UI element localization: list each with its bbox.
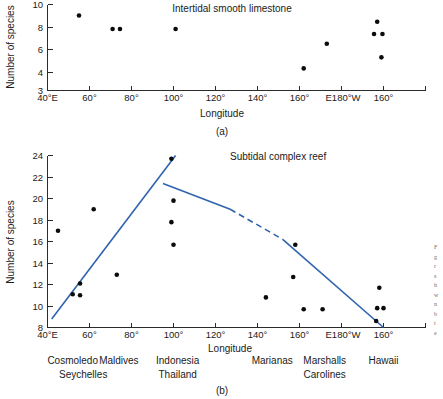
panel-b: 81012141618202224 Number of species 40°E… [5, 150, 426, 396]
panel-a-label: (a) [216, 126, 228, 137]
data-point [301, 66, 306, 71]
panel-a-axes [48, 5, 426, 91]
panel-b-location-labels-row2: SeychellesThailandCarolines [59, 369, 346, 380]
trend-line-falling-limb-dashed [230, 209, 283, 239]
panel-b-ytick-label: 24 [32, 150, 43, 161]
panel-b-data-points [56, 156, 386, 323]
data-point [171, 242, 176, 247]
data-point [110, 27, 115, 32]
location-label: Seychelles [59, 369, 107, 380]
panel-b-y-ticks [48, 156, 53, 328]
panel-b-ytick-label: 12 [32, 279, 43, 290]
panel-a: 10 8 6 4 3 Number of species [5, 0, 426, 137]
panel-b-x-tick-labels: 40°E 60° 80° 100° 120° 140° 160° E180°W … [37, 329, 393, 340]
trend-line-falling-limb-solid-left [163, 183, 230, 209]
location-label: Marshalls [303, 355, 346, 366]
panel-a-x-tick-labels: 40°E 60° 80° 100° 120° 140° 160° E180°W … [37, 92, 393, 103]
data-point [115, 273, 120, 278]
data-point [320, 307, 325, 312]
data-point [78, 293, 83, 298]
panel-a-ytick-8: 8 [38, 22, 43, 33]
data-point [173, 27, 178, 32]
panel-b-x-ticks [48, 323, 426, 328]
scatter-plot-svg: 10 8 6 4 3 Number of species [0, 0, 443, 399]
panel-a-xtick-3: 100° [164, 92, 184, 103]
data-point [169, 156, 174, 161]
panel-a-xtick-8: 160° [374, 92, 394, 103]
panel-b-ytick-label: 22 [32, 172, 43, 183]
panel-a-ytick-4: 4 [38, 67, 43, 78]
data-point [325, 42, 330, 47]
panel-b-trend-lines [52, 156, 384, 328]
data-point [377, 285, 382, 290]
figure-container: 10 8 6 4 3 Number of species [0, 0, 443, 399]
panel-a-y-ticks [48, 5, 53, 73]
panel-b-ytick-label: 10 [32, 301, 43, 312]
data-point [375, 19, 380, 24]
trend-line-falling-limb-solid-right [283, 239, 384, 327]
edge-caption-fragment: Fgrshwnbte [434, 243, 443, 338]
panel-b-xtick-0: 40°E [37, 329, 58, 340]
panel-a-xtick-7: E180°W [326, 92, 361, 103]
location-label: Marianas [252, 355, 293, 366]
panel-b-xtick-6: 160° [290, 329, 310, 340]
location-label: Carolines [304, 369, 346, 380]
panel-b-xtick-8: 160° [374, 329, 394, 340]
panel-b-xtick-5: 140° [248, 329, 268, 340]
panel-b-location-labels-row1: CosmoledoMaldivesIndonesiaMarianasMarsha… [47, 355, 398, 366]
data-point [264, 295, 269, 300]
panel-b-y-axis-title: Number of species [5, 200, 16, 283]
location-label: Thailand [159, 369, 197, 380]
data-point [78, 281, 83, 286]
panel-a-title: Intertidal smooth limestone [172, 3, 292, 14]
panel-b-xtick-7: E180°W [326, 329, 361, 340]
data-point [91, 207, 96, 212]
location-label: Hawaii [368, 355, 398, 366]
panel-a-x-axis-title: Longitude [200, 108, 244, 119]
data-point [380, 32, 385, 37]
location-label: Maldives [99, 355, 138, 366]
data-point [56, 228, 61, 233]
panel-b-label: (b) [216, 385, 228, 396]
panel-a-xtick-0: 40°E [37, 92, 58, 103]
panel-b-y-tick-labels: 81012141618202224 [32, 150, 43, 333]
data-point [379, 55, 384, 60]
data-point [372, 32, 377, 37]
data-point [375, 306, 380, 311]
trend-line-rising-limb [52, 156, 176, 319]
data-point [293, 242, 298, 247]
data-point [77, 13, 82, 18]
data-point [118, 27, 123, 32]
data-point [291, 275, 296, 280]
data-point [381, 306, 386, 311]
data-point [301, 307, 306, 312]
panel-b-xtick-4: 120° [206, 329, 226, 340]
panel-a-x-ticks [48, 86, 426, 91]
data-point [169, 220, 174, 225]
data-point [374, 319, 379, 324]
panel-b-xtick-3: 100° [164, 329, 184, 340]
panel-b-ytick-label: 16 [32, 236, 43, 247]
panel-a-xtick-4: 120° [206, 92, 226, 103]
panel-a-ytick-6: 6 [38, 44, 43, 55]
data-point [171, 198, 176, 203]
panel-a-xtick-5: 140° [248, 92, 268, 103]
panel-b-title-annotation: Subtidal complex reef [230, 151, 326, 162]
panel-b-xtick-1: 60° [82, 329, 97, 340]
panel-a-xtick-6: 160° [290, 92, 310, 103]
panel-b-ytick-label: 18 [32, 215, 43, 226]
data-point [70, 292, 75, 297]
panel-b-x-axis-title: Longitude [208, 343, 252, 354]
panel-a-y-tick-labels: 10 8 6 4 3 [32, 0, 43, 96]
panel-a-xtick-1: 60° [82, 92, 97, 103]
location-label: Indonesia [156, 355, 200, 366]
panel-b-ytick-label: 20 [32, 193, 43, 204]
panel-a-ytick-10: 10 [32, 0, 43, 10]
panel-b-axes [48, 156, 426, 328]
panel-b-xtick-2: 80° [124, 329, 139, 340]
panel-a-y-axis-title: Number of species [5, 5, 16, 88]
panel-a-xtick-2: 80° [124, 92, 139, 103]
panel-a-data-points [77, 13, 385, 70]
panel-b-ytick-label: 14 [32, 258, 43, 269]
location-label: Cosmoledo [47, 355, 98, 366]
